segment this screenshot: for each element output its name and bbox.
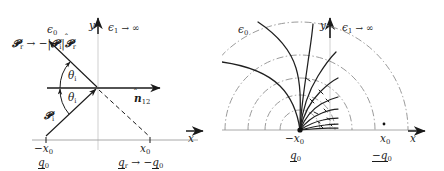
left-panel: ϵ0 y ϵ1 → ∞ 𝓟r → −|𝓟i|̂𝓟r θi θi ̂n12 𝓟i …: [0, 0, 222, 171]
equipotential-arc: [222, 22, 408, 130]
epsilon-outer-label-left: ϵ0: [47, 24, 57, 37]
upper-angle-label: θi: [68, 70, 77, 83]
image-charge-label-right: −q0: [372, 150, 392, 163]
equipotential-arcs: [222, 22, 408, 130]
epsilon-inner-label-right: ϵ1 → ∞: [342, 22, 373, 35]
y-axis-label-left: y: [89, 20, 95, 31]
x-axis-label-right: x: [410, 133, 416, 144]
field-lines: [222, 22, 338, 130]
figure-root: ϵ0 y ϵ1 → ∞ 𝓟r → −|𝓟i|̂𝓟r θi θi ̂n12 𝓟i …: [0, 0, 444, 171]
image-charge-relation-label-left: qr → −q0: [118, 157, 163, 170]
epsilon-inner-label-left: ϵ1 → ∞: [108, 22, 139, 35]
right-panel: ϵ0 y ϵ1 → ∞ −x0 x0 x q0 −q0: [222, 0, 444, 171]
source-position-label-right: −x0: [285, 133, 304, 146]
source-charge-label-right: q0: [290, 150, 301, 163]
reflected-displacement-relation-label: 𝓟r → −|𝓟i|̂𝓟r: [12, 38, 76, 51]
field-line: [300, 24, 313, 130]
epsilon-outer-label-right: ϵ0: [238, 24, 248, 37]
source-position-label-left: −x0: [34, 143, 53, 156]
image-position-label-right: x0: [380, 133, 390, 146]
x-axis-label-left: x: [188, 133, 194, 144]
y-axis-label-right: y: [320, 20, 326, 31]
field-line: [258, 22, 300, 130]
lower-angle-label: θi: [68, 92, 77, 105]
image-charge-point: [383, 123, 386, 126]
incident-displacement-label: 𝓟i: [44, 110, 54, 123]
normal-vector-label: ̂n12: [134, 93, 150, 106]
image-position-label-left: x0: [140, 143, 150, 156]
source-charge-label-left: q0: [38, 157, 49, 170]
right-panel-graphic: [222, 0, 444, 171]
